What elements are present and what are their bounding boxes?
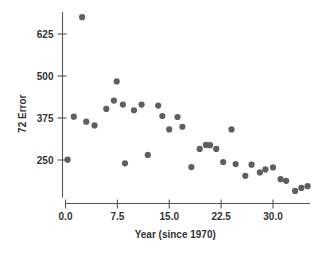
data-point	[188, 164, 194, 170]
data-point	[71, 114, 77, 120]
x-tick-label: 15.0	[160, 211, 180, 222]
data-point	[248, 162, 254, 168]
data-point	[122, 160, 128, 166]
scatter-plot-figure: 2503755006250.07.515.022.530.0Year (sinc…	[0, 0, 328, 254]
x-tick-label: 0.0	[59, 211, 73, 222]
x-axis-title: Year (since 1970)	[135, 229, 216, 240]
y-axis-title: 72 Error	[17, 94, 28, 132]
data-point	[179, 124, 185, 130]
data-point	[278, 176, 284, 182]
data-point	[262, 166, 268, 172]
data-point	[131, 107, 137, 113]
data-point	[166, 126, 172, 132]
y-tick-label: 625	[37, 29, 54, 40]
data-point	[103, 106, 109, 112]
y-tick-label: 250	[37, 155, 54, 166]
x-tick-label: 30.0	[263, 211, 283, 222]
data-point	[213, 146, 219, 152]
data-point	[64, 157, 70, 163]
data-point	[304, 183, 310, 189]
data-point	[114, 78, 120, 84]
data-point	[233, 161, 239, 167]
data-point	[138, 101, 144, 107]
data-point	[207, 142, 213, 148]
data-point	[292, 188, 298, 194]
data-point	[174, 114, 180, 120]
data-point	[83, 119, 89, 125]
axis-labels-group: 2503755006250.07.515.022.530.0Year (sinc…	[17, 29, 283, 240]
chart-canvas: 2503755006250.07.515.022.530.0Year (sinc…	[0, 0, 328, 254]
data-point	[298, 185, 304, 191]
data-point	[120, 101, 126, 107]
y-tick-label: 375	[37, 113, 54, 124]
data-point	[270, 164, 276, 170]
data-points-group	[64, 14, 310, 194]
x-tick-label: 7.5	[110, 211, 124, 222]
data-point	[145, 152, 151, 158]
data-point	[197, 146, 203, 152]
data-point	[111, 97, 117, 103]
axes-group	[58, 12, 311, 209]
data-point	[79, 14, 85, 20]
data-point	[228, 126, 234, 132]
data-point	[242, 173, 248, 179]
y-tick-label: 500	[37, 71, 54, 82]
data-point	[220, 159, 226, 165]
x-tick-label: 22.5	[211, 211, 231, 222]
data-point	[283, 178, 289, 184]
data-point	[155, 102, 161, 108]
data-point	[257, 169, 263, 175]
data-point	[91, 122, 97, 128]
data-point	[159, 113, 165, 119]
